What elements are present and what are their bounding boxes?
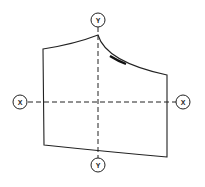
x-right-marker: X xyxy=(176,95,190,109)
y-bottom-marker: Y xyxy=(91,158,105,172)
y-bottom-label: Y xyxy=(96,162,101,169)
pattern-outline xyxy=(43,35,167,157)
y-top-marker: Y xyxy=(91,13,105,27)
diagram-svg: Y Y X X xyxy=(0,0,205,187)
x-right-label: X xyxy=(181,99,186,106)
pattern-diagram: Y Y X X xyxy=(0,0,205,187)
x-left-label: X xyxy=(18,99,23,106)
x-left-marker: X xyxy=(13,95,27,109)
y-top-label: Y xyxy=(96,17,101,24)
